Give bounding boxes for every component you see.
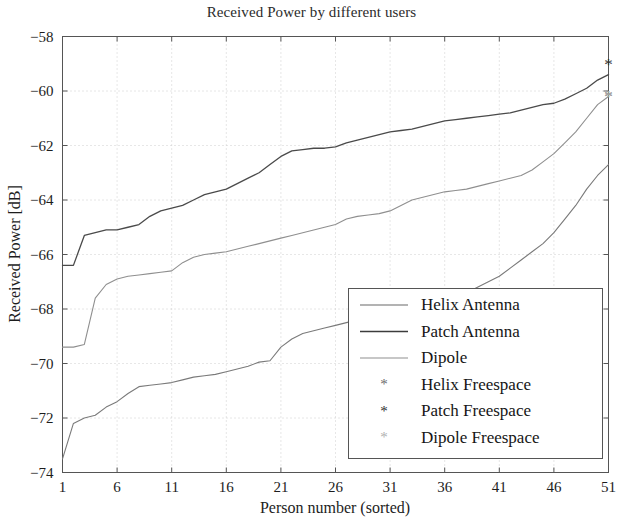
y-tick--72: −72 — [30, 410, 53, 426]
legend-label-helix-antenna: Helix Antenna — [421, 295, 520, 314]
y-tick--66: −66 — [30, 247, 54, 263]
plot-area: 16111621263136414651−74−72−70−68−66−64−6… — [0, 0, 623, 528]
legend-label-dipole: Dipole — [421, 348, 467, 367]
y-tick--64: −64 — [30, 192, 54, 208]
y-tick--70: −70 — [30, 356, 53, 372]
x-axis-label: Person number (sorted) — [260, 499, 410, 517]
legend-label-patch-antenna: Patch Antenna — [421, 322, 520, 341]
y-tick--68: −68 — [30, 301, 53, 317]
x-tick-16: 16 — [219, 479, 235, 495]
x-tick-26: 26 — [328, 479, 344, 495]
x-tick-6: 6 — [113, 479, 121, 495]
legend-label-helix-freespace: Helix Freespace — [421, 375, 531, 394]
x-tick-11: 11 — [164, 479, 178, 495]
legend-swatch-asterisk-icon: * — [380, 403, 388, 419]
chart-legend[interactable]: Helix AntennaPatch AntennaDipole*Helix F… — [349, 289, 603, 459]
x-tick-46: 46 — [546, 479, 562, 495]
legend-swatch-asterisk-icon: * — [380, 429, 388, 445]
marker-patch-freespace: * — [604, 55, 613, 74]
x-tick-31: 31 — [383, 479, 398, 495]
x-tick-51: 51 — [601, 479, 616, 495]
x-tick-36: 36 — [437, 479, 453, 495]
y-axis-label: Received Power [dB] — [6, 185, 23, 323]
y-tick--60: −60 — [30, 83, 53, 99]
y-tick--74: −74 — [30, 465, 54, 481]
legend-label-dipole-freespace: Dipole Freespace — [421, 428, 539, 447]
legend-label-patch-freespace: Patch Freespace — [421, 401, 531, 420]
x-tick-1: 1 — [59, 479, 67, 495]
marker-dipole-freespace: * — [604, 87, 613, 106]
legend-swatch-asterisk-icon: * — [380, 376, 388, 392]
x-tick-41: 41 — [492, 479, 507, 495]
chart-figure: Received Power by different users 161116… — [0, 0, 623, 528]
x-tick-21: 21 — [273, 479, 288, 495]
y-tick--62: −62 — [30, 138, 53, 154]
y-tick--58: −58 — [30, 29, 53, 45]
